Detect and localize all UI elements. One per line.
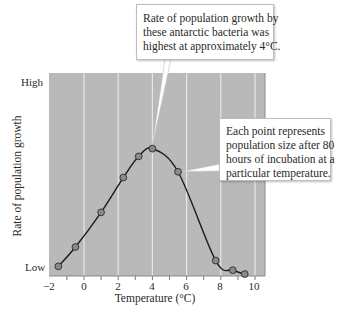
y-tick-low: Low bbox=[25, 261, 45, 273]
callout-line: these antarctic bacteria was bbox=[143, 25, 267, 39]
callout-line: Each point represents bbox=[226, 124, 324, 138]
x-tick-label: 2 bbox=[115, 280, 121, 292]
callout-line: hours of incubation at a bbox=[226, 152, 324, 166]
callout-line: Rate of population growth by bbox=[143, 11, 267, 25]
callout-data-points: Each point represents population size af… bbox=[219, 118, 331, 181]
x-tick-label: 0 bbox=[81, 280, 87, 292]
x-tick-label: 6 bbox=[183, 280, 189, 292]
data-point-marker bbox=[175, 168, 182, 175]
data-point-marker bbox=[98, 209, 105, 216]
data-point-marker bbox=[135, 153, 142, 160]
y-axis-label: Rate of population growth bbox=[11, 115, 23, 236]
x-tick-label: 4 bbox=[149, 280, 155, 292]
y-tick-high: High bbox=[21, 76, 43, 88]
callout-line: population size after 80 bbox=[226, 138, 324, 152]
x-tick-label: 10 bbox=[249, 280, 260, 292]
data-point-marker bbox=[120, 174, 127, 181]
callout-line: highest at approximately 4°C. bbox=[143, 39, 267, 53]
data-point-marker bbox=[55, 263, 62, 270]
data-point-marker bbox=[149, 145, 156, 152]
x-tick-label: −2 bbox=[43, 280, 55, 292]
data-point-marker bbox=[241, 271, 248, 278]
data-point-marker bbox=[212, 257, 219, 264]
x-axis-label: Temperature (°C) bbox=[115, 292, 196, 304]
callout-line: particular temperature. bbox=[226, 166, 324, 180]
data-point-marker bbox=[229, 267, 236, 274]
data-point-marker bbox=[72, 244, 79, 251]
x-tick-label: 8 bbox=[217, 280, 223, 292]
callout-peak-growth: Rate of population growth by these antar… bbox=[136, 4, 274, 60]
